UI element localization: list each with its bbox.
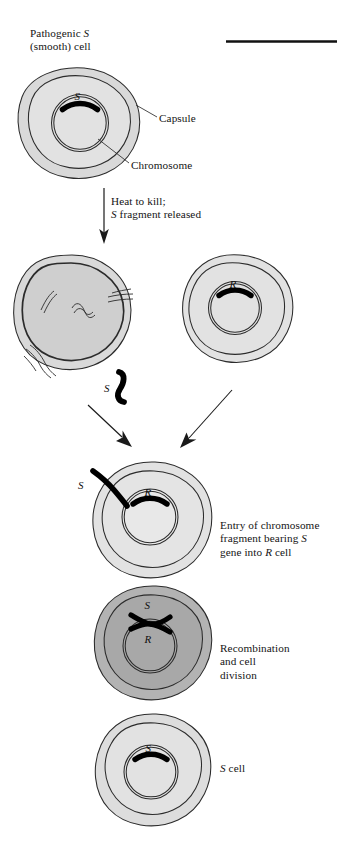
entry-italic-s: S xyxy=(301,532,307,544)
label-chromosome: Chromosome xyxy=(131,159,192,172)
gene-label-s-cell1: S xyxy=(75,90,81,102)
gene-label-s-final: S xyxy=(146,742,152,754)
label-capsule: Capsule xyxy=(159,112,196,125)
s-fragment-stroke xyxy=(118,372,124,402)
gene-label-s-fragment: S xyxy=(104,382,110,394)
label-recombination: Recombinationand celldivision xyxy=(220,642,290,682)
cell-recombination: S R xyxy=(94,586,211,700)
cell-heat-killed xyxy=(14,255,133,378)
gene-label-s-recomb: S xyxy=(145,599,151,611)
label-s-cell: S cell xyxy=(220,762,245,775)
arrow-heat-kill xyxy=(99,188,109,244)
gene-label-r-recomb: R xyxy=(144,633,152,645)
page-title: Pathogenic S(smooth) cell xyxy=(30,27,91,54)
label-entry-of-fragment: Entry of chromosomefragment bearing Sgen… xyxy=(220,519,319,559)
cell-entry-of-fragment: R S xyxy=(78,462,212,578)
cell-transformed-s: S xyxy=(95,714,210,826)
label-heat-to-kill: Heat to kill;S fragment released xyxy=(111,195,201,222)
gene-label-r-cell: R xyxy=(229,278,237,290)
dead-cell-wall-outline xyxy=(22,263,123,360)
transformation-diagram: S S xyxy=(0,0,339,847)
free-s-fragment: S xyxy=(104,372,124,402)
arrow-fragment-to-entry xyxy=(88,405,132,447)
arrow-rcell-to-entry xyxy=(180,390,232,448)
gene-label-r-entry: R xyxy=(144,486,152,498)
title-italic-s: S xyxy=(84,27,90,39)
gene-label-s-entry: S xyxy=(78,479,84,491)
cell-living-r: R xyxy=(183,255,293,363)
